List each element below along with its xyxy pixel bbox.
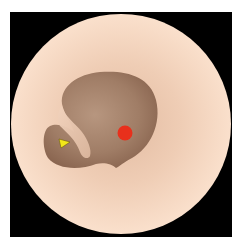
red-dot-marker (118, 126, 133, 141)
otoscope-diagram (0, 0, 239, 242)
